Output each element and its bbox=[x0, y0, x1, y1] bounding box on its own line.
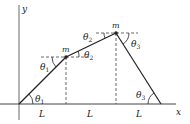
span-label-3: L bbox=[135, 109, 142, 119]
y-axis-label: y bbox=[21, 4, 28, 14]
mass-2-label: m bbox=[112, 21, 120, 30]
theta1-label-top: θ1 bbox=[40, 62, 49, 73]
x-axis-label: x bbox=[176, 107, 181, 117]
theta2-arc-right bbox=[78, 51, 79, 57]
theta1-arc-bottom bbox=[29, 94, 33, 104]
span-label-2: L bbox=[86, 109, 93, 119]
theta2-label-left: θ2 bbox=[83, 32, 92, 43]
theta1-arc-top bbox=[52, 57, 56, 67]
theta1-label-bottom: θ1 bbox=[35, 94, 44, 105]
span-label-1: L bbox=[38, 109, 45, 119]
theta3-label-top: θ3 bbox=[131, 39, 140, 50]
mass-2 bbox=[114, 31, 118, 35]
string-masses-diagram: y x m m θ1 θ1 θ2 θ2 θ3 θ3 L L L bbox=[0, 0, 190, 124]
theta2-label-right: θ2 bbox=[84, 50, 93, 61]
mass-1-label: m bbox=[62, 45, 70, 54]
theta3-arc-bottom bbox=[148, 93, 154, 104]
theta3-label-bottom: θ3 bbox=[136, 90, 145, 101]
theta2-arc-left bbox=[104, 33, 105, 38]
mass-1 bbox=[64, 55, 68, 59]
theta3-arc-top bbox=[123, 33, 129, 44]
